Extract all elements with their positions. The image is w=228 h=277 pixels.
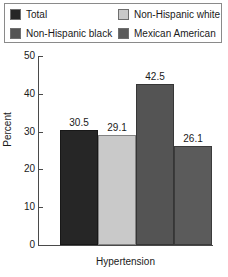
legend-label-mexican-american: Mexican American: [134, 28, 216, 39]
y-tick-label-20: 20: [24, 163, 35, 174]
legend-entry-total: Total: [10, 9, 118, 20]
bar-mexican-american[interactable]: [174, 146, 212, 245]
legend-swatch-mexican-american: [118, 28, 129, 39]
y-tick-label-0: 0: [29, 239, 35, 250]
legend-label-non-hispanic-white: Non-Hispanic white: [134, 9, 220, 20]
bar-value-total: 30.5: [69, 117, 88, 128]
legend-label-total: Total: [26, 9, 47, 20]
bar-total[interactable]: [60, 130, 98, 245]
y-tick-mark-0: [38, 245, 43, 246]
bar-value-non-hispanic-black: 42.5: [145, 71, 164, 82]
y-tick-label-30: 30: [24, 126, 35, 137]
y-tick-label-10: 10: [24, 201, 35, 212]
bar-chart-figure: Total Non-Hispanic white Non-Hispanic bl…: [0, 0, 228, 277]
legend-swatch-total: [10, 9, 21, 20]
bar-non-hispanic-white[interactable]: [98, 135, 136, 245]
legend-entry-mexican-american: Mexican American: [118, 28, 226, 39]
legend-entry-non-hispanic-black: Non-Hispanic black: [10, 28, 118, 39]
y-tick-label-50: 50: [24, 50, 35, 61]
bar-non-hispanic-black[interactable]: [136, 84, 174, 245]
plot-area: Percent 01020304050 30.5 29.1 42.5 26.1 …: [0, 44, 228, 277]
bar-value-mexican-american: 26.1: [183, 133, 202, 144]
x-axis-line: [38, 245, 213, 246]
legend-label-non-hispanic-black: Non-Hispanic black: [26, 28, 112, 39]
legend-swatch-non-hispanic-white: [118, 9, 129, 20]
bar-value-non-hispanic-white: 29.1: [107, 122, 126, 133]
x-axis-title: Hypertension: [38, 256, 213, 267]
bar-group: 30.5 29.1 42.5 26.1: [39, 56, 213, 245]
legend-grid: Total Non-Hispanic white Non-Hispanic bl…: [5, 4, 221, 42]
chart-legend: Total Non-Hispanic white Non-Hispanic bl…: [4, 3, 222, 43]
legend-entry-non-hispanic-white: Non-Hispanic white: [118, 9, 226, 20]
y-axis-title: Percent: [2, 90, 13, 170]
y-tick-label-40: 40: [24, 88, 35, 99]
y-tick-0: 0: [38, 245, 43, 246]
legend-swatch-non-hispanic-black: [10, 28, 21, 39]
